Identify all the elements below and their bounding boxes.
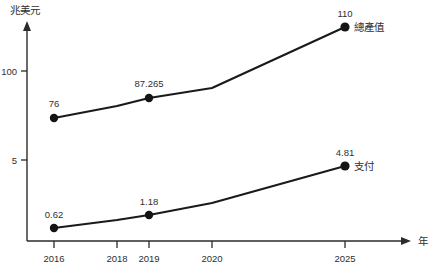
data-point-payment-2019 — [145, 211, 153, 219]
data-point-payment-2016 — [50, 224, 58, 232]
x-axis-arrow-icon — [401, 237, 411, 245]
line-chart: 兆美元 年 100 5 2016 2018 2019 2020 2025 76 … — [0, 0, 436, 270]
x-tick-label-1: 2018 — [106, 253, 127, 264]
x-tick-label-0: 2016 — [43, 253, 64, 264]
value-label-payment-2019: 1.18 — [140, 196, 159, 207]
data-point-gross-2025 — [340, 22, 349, 31]
chart-canvas: 兆美元 年 100 5 2016 2018 2019 2020 2025 76 … — [0, 0, 436, 270]
series-line-gross-output — [54, 27, 345, 118]
x-tick-label-3: 2020 — [201, 253, 222, 264]
value-label-payment-2016: 0.62 — [45, 209, 64, 220]
data-point-gross-2019 — [145, 94, 153, 102]
y-tick-label-1: 5 — [12, 155, 17, 166]
y-axis-unit-label: 兆美元 — [10, 4, 41, 16]
series-label-gross-output: 總產值 — [354, 21, 385, 33]
data-point-payment-2025 — [340, 161, 349, 170]
value-label-gross-2016: 76 — [49, 98, 60, 109]
series-label-payment: 支付 — [354, 160, 374, 172]
value-label-gross-2019: 87.265 — [134, 78, 163, 89]
value-label-gross-2025: 110 — [337, 8, 352, 19]
data-point-gross-2016 — [50, 114, 58, 122]
x-tick-label-4: 2025 — [334, 253, 355, 264]
value-label-payment-2025: 4.81 — [336, 147, 355, 158]
y-axis-arrow-icon — [23, 21, 31, 31]
y-tick-label-0: 100 — [1, 66, 17, 77]
series-line-payment — [54, 166, 345, 228]
x-axis-unit-label: 年 — [418, 235, 428, 247]
x-tick-label-2: 2019 — [138, 253, 159, 264]
